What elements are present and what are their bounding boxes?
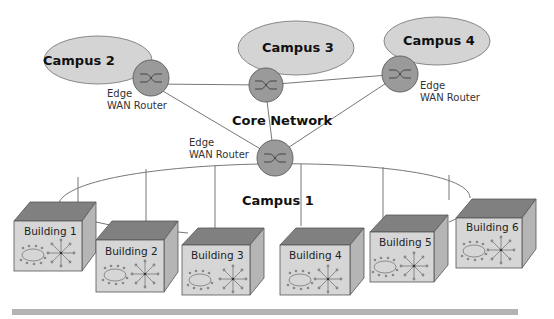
building-6[interactable]: Building 6 xyxy=(456,199,536,268)
router-campus-4[interactable] xyxy=(382,56,418,92)
core-network-label: Core Network xyxy=(232,113,332,128)
router-campus-1-label-line2: WAN Router xyxy=(189,149,250,160)
building-4[interactable]: Building 4 xyxy=(280,228,364,295)
building-2-label: Building 2 xyxy=(105,245,158,257)
router-campus-1[interactable] xyxy=(257,140,293,176)
building-3[interactable]: Building 3 xyxy=(182,228,264,295)
building-4-label: Building 4 xyxy=(289,249,342,261)
building-6-label: Building 6 xyxy=(466,221,519,233)
campus-network-diagram: Campus 2 Campus 3 Campus 4 Edge WAN Rout… xyxy=(0,0,554,319)
router-campus-1-label-line1: Edge xyxy=(189,137,214,148)
building-2[interactable]: Building 2 xyxy=(96,221,178,292)
building-5[interactable]: Building 5 xyxy=(370,215,448,282)
campus-3: Campus 3 xyxy=(238,21,354,75)
building-1[interactable]: Building 1 xyxy=(14,202,96,271)
link-campus3-campus4 xyxy=(265,74,400,85)
campus-2-label: Campus 2 xyxy=(43,53,115,68)
router-campus-4-label-line2: WAN Router xyxy=(420,92,481,103)
router-campus-2-label-line2: WAN Router xyxy=(107,100,168,111)
campus-4-label: Campus 4 xyxy=(403,33,475,48)
router-campus-2-label-line1: Edge xyxy=(107,88,132,99)
campus-1-label: Campus 1 xyxy=(242,193,314,208)
router-campus-4-label-line1: Edge xyxy=(420,80,445,91)
router-campus-3[interactable] xyxy=(249,68,283,102)
router-campus-2[interactable] xyxy=(133,60,169,96)
campus-3-label: Campus 3 xyxy=(262,40,334,55)
building-5-label: Building 5 xyxy=(379,236,432,248)
building-3-label: Building 3 xyxy=(191,249,244,261)
footer-divider-bar xyxy=(12,309,518,315)
building-1-label: Building 1 xyxy=(24,225,77,237)
